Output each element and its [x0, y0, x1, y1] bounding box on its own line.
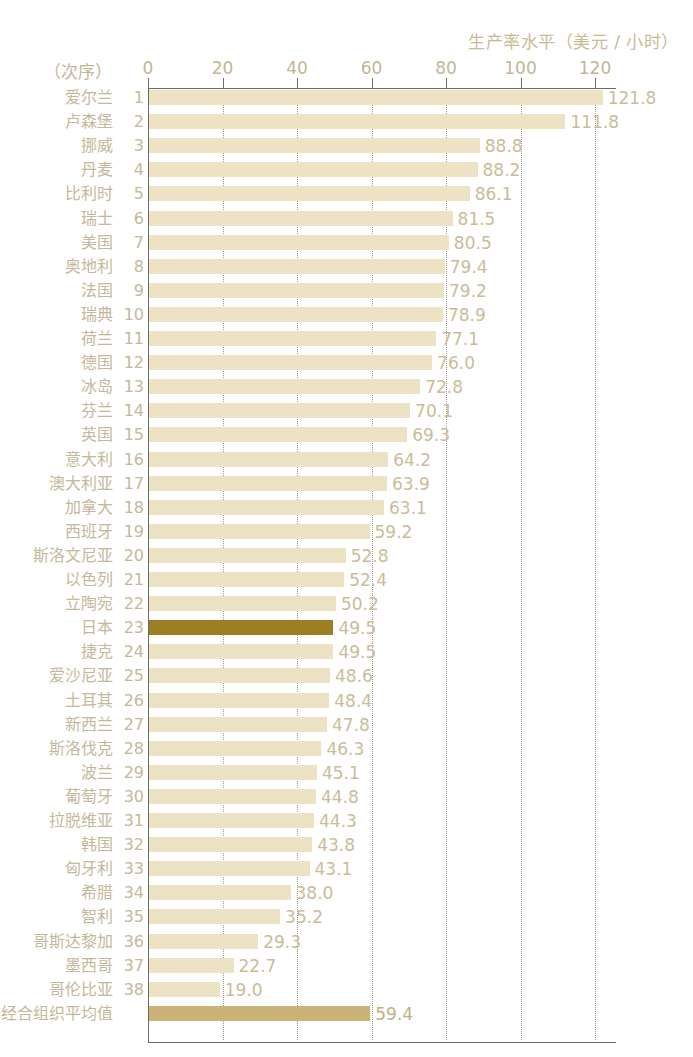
row-country-label: 斯洛伐克 — [0, 739, 113, 759]
row-rank-label: 20 — [116, 546, 144, 566]
bar-value-label: 121.8 — [608, 88, 657, 108]
row-rank-label: 1 — [116, 88, 144, 108]
row-rank-label: 28 — [116, 739, 144, 759]
bar-row: 奥地利879.4 — [0, 259, 693, 283]
bar-value-label: 81.5 — [458, 209, 496, 229]
row-rank-label: 19 — [116, 522, 144, 542]
bar-value-label: 59.2 — [375, 522, 413, 542]
bar-row: 加拿大1863.1 — [0, 500, 693, 524]
bar — [149, 620, 333, 635]
bar-row: 经合组织平均值59.4 — [0, 1006, 693, 1030]
row-country-label: 土耳其 — [0, 691, 113, 711]
bar-value-label: 72.8 — [425, 377, 463, 397]
row-country-label: 西班牙 — [0, 522, 113, 542]
row-country-label: 爱沙尼亚 — [0, 666, 113, 686]
bar-row: 新西兰2747.8 — [0, 717, 693, 741]
bar-row: 德国1276.0 — [0, 355, 693, 379]
bar-value-label: 76.0 — [437, 353, 475, 373]
bar-row: 美国780.5 — [0, 235, 693, 259]
bar-value-label: 19.0 — [225, 980, 263, 1000]
bar — [149, 572, 344, 587]
bar-row: 智利3535.2 — [0, 909, 693, 933]
bar-value-label: 69.3 — [412, 425, 450, 445]
row-rank-label: 24 — [116, 642, 144, 662]
bar-value-label: 70.1 — [415, 401, 453, 421]
chart-title: 生产率水平（美元 / 小时） — [468, 28, 679, 53]
bar-row: 韩国3243.8 — [0, 837, 693, 861]
row-country-label: 法国 — [0, 281, 113, 301]
row-country-label: 丹麦 — [0, 160, 113, 180]
row-country-label: 希腊 — [0, 883, 113, 903]
row-rank-label: 34 — [116, 883, 144, 903]
bar-value-label: 52.4 — [349, 570, 387, 590]
row-country-label: 葡萄牙 — [0, 787, 113, 807]
bar — [149, 331, 436, 346]
row-country-label: 经合组织平均值 — [0, 1004, 113, 1024]
bar — [149, 476, 387, 491]
row-rank-label: 32 — [116, 835, 144, 855]
row-country-label: 瑞士 — [0, 209, 113, 229]
bar-value-label: 49.5 — [338, 618, 376, 638]
row-rank-label: 30 — [116, 787, 144, 807]
row-country-label: 墨西哥 — [0, 956, 113, 976]
bar-row: 立陶宛2250.2 — [0, 596, 693, 620]
row-country-label: 哥伦比亚 — [0, 980, 113, 1000]
bar-value-label: 43.8 — [317, 835, 355, 855]
bar-value-label: 52.8 — [351, 546, 389, 566]
row-rank-label: 38 — [116, 980, 144, 1000]
row-rank-label: 11 — [116, 329, 144, 349]
bar — [149, 283, 444, 298]
bar — [149, 837, 312, 852]
bar-value-label: 46.3 — [326, 739, 364, 759]
bar — [149, 403, 410, 418]
axis-top-line — [148, 88, 616, 89]
row-country-label: 以色列 — [0, 570, 113, 590]
row-country-label: 英国 — [0, 425, 113, 445]
bar-value-label: 45.1 — [322, 763, 360, 783]
bar-value-label: 48.6 — [335, 666, 373, 686]
row-rank-label: 13 — [116, 377, 144, 397]
bar — [149, 452, 388, 467]
row-country-label: 爱尔兰 — [0, 88, 113, 108]
row-country-label: 拉脱维亚 — [0, 811, 113, 831]
row-country-label: 美国 — [0, 233, 113, 253]
row-rank-label: 3 — [116, 136, 144, 156]
row-rank-label: 17 — [116, 474, 144, 494]
row-country-label: 奥地利 — [0, 257, 113, 277]
row-rank-label: 33 — [116, 859, 144, 879]
axis-bottom-line — [148, 1042, 616, 1043]
row-rank-label: 18 — [116, 498, 144, 518]
row-country-label: 立陶宛 — [0, 594, 113, 614]
row-rank-label: 37 — [116, 956, 144, 976]
x-tick-label-40: 40 — [286, 58, 308, 78]
bar — [149, 958, 234, 973]
bar-row: 荷兰1177.1 — [0, 331, 693, 355]
bar — [149, 644, 333, 659]
bar-value-label: 80.5 — [454, 233, 492, 253]
bar-row: 法国979.2 — [0, 283, 693, 307]
x-tick-label-120: 120 — [579, 58, 611, 78]
row-rank-label: 7 — [116, 233, 144, 253]
bar-row: 西班牙1959.2 — [0, 524, 693, 548]
row-country-label: 智利 — [0, 907, 113, 927]
bar-row: 斯洛文尼亚2052.8 — [0, 548, 693, 572]
bar-value-label: 78.9 — [448, 305, 486, 325]
row-rank-label: 12 — [116, 353, 144, 373]
bar-row: 捷克2449.5 — [0, 644, 693, 668]
bar-row: 瑞士681.5 — [0, 211, 693, 235]
row-rank-label: 22 — [116, 594, 144, 614]
bar-value-label: 88.2 — [483, 160, 521, 180]
bar — [149, 259, 445, 274]
bar — [149, 548, 346, 563]
bar — [149, 934, 258, 949]
x-tick-label-100: 100 — [504, 58, 536, 78]
row-rank-label: 36 — [116, 932, 144, 952]
bar-value-label: 49.5 — [338, 642, 376, 662]
bar — [149, 596, 336, 611]
row-rank-label: 21 — [116, 570, 144, 590]
row-country-label: 澳大利亚 — [0, 474, 113, 494]
bar-value-label: 47.8 — [332, 715, 370, 735]
bar — [149, 379, 420, 394]
bar-row: 爱尔兰1121.8 — [0, 90, 693, 114]
bar — [149, 861, 310, 876]
